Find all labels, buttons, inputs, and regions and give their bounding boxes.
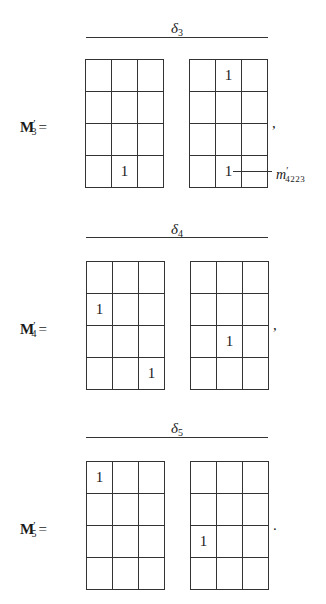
- grid-cell: [138, 156, 164, 188]
- grid-cell: 1: [191, 526, 217, 558]
- grid-cell: [243, 558, 269, 590]
- grid-cell: [242, 124, 268, 156]
- delta-symbol: δ: [171, 221, 178, 237]
- trailing-comma: ,: [273, 318, 277, 333]
- grid-cell: [191, 358, 217, 390]
- matrix-m4-label: M′4=: [20, 316, 47, 343]
- grid-cell: [217, 358, 243, 390]
- grid-cell: [139, 526, 165, 558]
- grid-cell: [242, 60, 268, 92]
- grid-cell: [138, 92, 164, 124]
- grid-cell: [113, 526, 139, 558]
- delta-5-label: δ5: [86, 420, 268, 436]
- grid-cell: [87, 494, 113, 526]
- equals-sign: =: [39, 321, 47, 337]
- grid-cell: [190, 92, 216, 124]
- grid-cell: [243, 262, 269, 294]
- grid-cell: [217, 526, 243, 558]
- equals-sign: =: [39, 119, 47, 135]
- section-delta-3: δ3 M′3= 1 1 1 , m′4223: [0, 0, 326, 200]
- grid-cell: [190, 60, 216, 92]
- grid-cell: [113, 494, 139, 526]
- section-delta-4: δ4 M′4= 1 1 1 ,: [0, 200, 326, 400]
- grid-cell: [191, 294, 217, 326]
- grid-cell: 1: [217, 326, 243, 358]
- grid-cell: [191, 558, 217, 590]
- matrix-m3-right-grid: 1 1: [189, 59, 268, 188]
- matrix-m4-left-grid: 1 1: [86, 261, 165, 390]
- grid-cell: [139, 558, 165, 590]
- grid-cell: [217, 558, 243, 590]
- grid-cell: [217, 262, 243, 294]
- grid-cell: [113, 462, 139, 494]
- grid-cell: [87, 526, 113, 558]
- matrix-index: 5: [32, 528, 37, 539]
- grid-cell: [243, 462, 269, 494]
- grid-cell: [139, 462, 165, 494]
- annotation-leader-line: [233, 171, 272, 172]
- grid-cell: [190, 124, 216, 156]
- grid-cell: [87, 326, 113, 358]
- grid-cell: 1: [216, 156, 242, 188]
- grid-cell: [243, 494, 269, 526]
- delta-3-label: δ3: [86, 20, 268, 36]
- matrix-m3-left-grid: 1: [85, 59, 164, 188]
- grid-cell: [216, 92, 242, 124]
- grid-cell: [112, 92, 138, 124]
- grid-cell: 1: [87, 462, 113, 494]
- grid-cell: [217, 494, 243, 526]
- grid-cell: 1: [112, 156, 138, 188]
- grid-cell: [138, 124, 164, 156]
- trailing-period: .: [273, 518, 277, 533]
- matrix-m5-label: M′5=: [20, 516, 47, 543]
- grid-cell: [191, 462, 217, 494]
- grid-cell: [139, 326, 165, 358]
- grid-cell: [113, 294, 139, 326]
- grid-cell: [86, 156, 112, 188]
- matrix-index: 3: [32, 126, 37, 137]
- delta-5-rule: [86, 437, 268, 438]
- delta-3-rule: [86, 37, 268, 38]
- grid-cell: [217, 294, 243, 326]
- delta-4-rule: [86, 237, 268, 238]
- grid-cell: [217, 462, 243, 494]
- annotation-label-m4223: m′4223: [276, 163, 305, 187]
- delta-symbol: δ: [171, 20, 178, 36]
- matrix-m5-right-grid: 1: [190, 461, 269, 590]
- grid-cell: [139, 494, 165, 526]
- matrix-index: 4: [32, 328, 37, 339]
- grid-cell: [191, 494, 217, 526]
- grid-cell: [190, 156, 216, 188]
- grid-cell: [87, 558, 113, 590]
- matrix-m4-right-grid: 1: [190, 261, 269, 390]
- grid-cell: [138, 60, 164, 92]
- delta-symbol: δ: [171, 420, 178, 436]
- grid-cell: [242, 92, 268, 124]
- grid-cell: [86, 60, 112, 92]
- grid-cell: [191, 326, 217, 358]
- grid-cell: [87, 262, 113, 294]
- grid-cell: [113, 326, 139, 358]
- grid-cell: [243, 358, 269, 390]
- annotation-subscript: 4223: [285, 174, 305, 184]
- grid-cell: [86, 92, 112, 124]
- grid-cell: [86, 124, 112, 156]
- grid-cell: 1: [216, 60, 242, 92]
- grid-cell: 1: [139, 358, 165, 390]
- grid-cell: 1: [87, 294, 113, 326]
- grid-cell: [243, 326, 269, 358]
- delta-4-label: δ4: [86, 221, 268, 237]
- grid-cell: [216, 124, 242, 156]
- matrix-m3-label: M′3=: [20, 114, 47, 141]
- grid-cell: [139, 262, 165, 294]
- grid-cell: [113, 358, 139, 390]
- grid-cell: [243, 294, 269, 326]
- grid-cell: [87, 358, 113, 390]
- grid-cell: [112, 124, 138, 156]
- grid-cell: [242, 156, 268, 188]
- trailing-comma: ,: [272, 116, 276, 131]
- grid-cell: [113, 262, 139, 294]
- section-delta-5: δ5 M′5= 1 1 .: [0, 400, 326, 600]
- grid-cell: [112, 60, 138, 92]
- grid-cell: [139, 294, 165, 326]
